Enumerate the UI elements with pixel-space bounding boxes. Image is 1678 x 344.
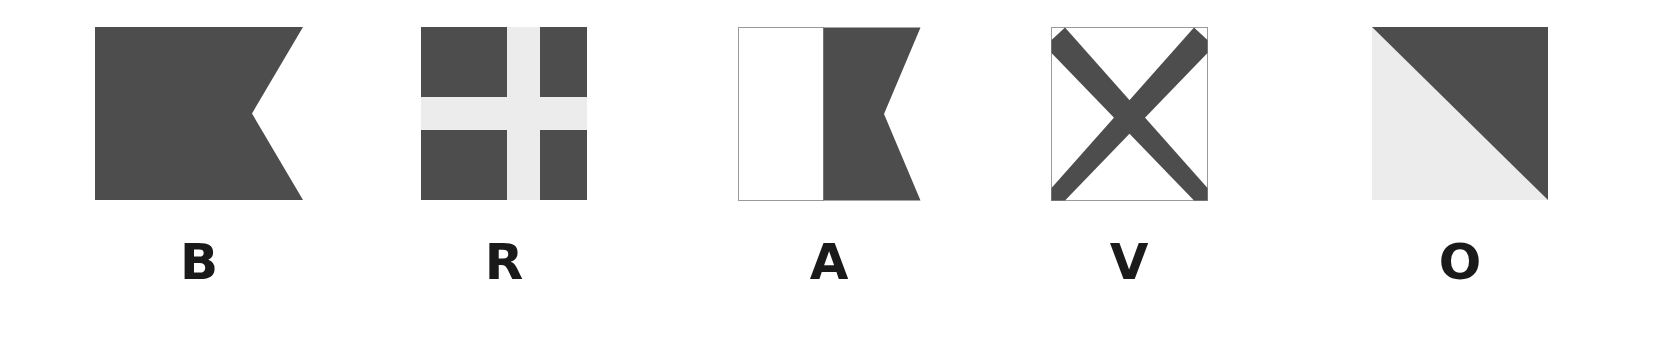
flag-label-r: R <box>421 236 587 288</box>
flag-item-a: A <box>738 0 920 344</box>
flag-romeo-graphic <box>421 27 587 200</box>
flag-bravo-graphic <box>95 27 303 200</box>
flag-label-v: V <box>1051 236 1207 288</box>
signal-flag-board: B R A <box>0 0 1678 344</box>
alfa-hoist-white <box>739 28 824 201</box>
flag-label-b: B <box>95 236 303 288</box>
alfa-fly-swallowtail <box>824 28 921 201</box>
flag-item-o: O <box>1372 0 1548 344</box>
flag-item-v: V <box>1051 0 1207 344</box>
bravo-swallowtail-body <box>95 27 303 200</box>
flag-oscar-graphic <box>1372 27 1548 200</box>
flag-item-r: R <box>421 0 587 344</box>
flag-item-b: B <box>95 0 303 344</box>
flag-alfa-graphic <box>738 27 921 201</box>
flag-label-a: A <box>738 236 920 288</box>
flag-victor-graphic <box>1051 27 1208 201</box>
romeo-cross-horizontal <box>421 97 587 130</box>
flag-label-o: O <box>1372 236 1548 288</box>
